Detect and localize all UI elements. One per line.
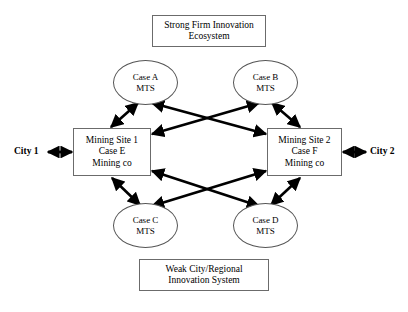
link-case-d-to-site-2: [271, 178, 300, 205]
link-case-c-to-site-1: [112, 178, 140, 205]
node-case-c-mts: Case C MTS: [113, 203, 178, 248]
mining-site-2-line-3: Mining co: [285, 158, 324, 169]
mining-site-2-line-2: Case F: [291, 146, 317, 157]
mining-site-1-line-1: Mining Site 1: [86, 135, 138, 146]
link-case-a-to-site-1: [111, 103, 138, 127]
banner-bottom-line-1: Weak City/Regional: [165, 264, 242, 275]
node-case-b-mts: Case B MTS: [233, 60, 298, 105]
mining-site-2-line-1: Mining Site 2: [278, 135, 330, 146]
case-c-label: Case C: [133, 215, 159, 226]
diagram-canvas: Strong Firm Innovation Ecosystem Case A …: [0, 0, 408, 312]
case-a-sublabel: MTS: [136, 83, 155, 94]
node-mining-site-1: Mining Site 1 Case E Mining co: [73, 128, 151, 176]
mining-site-1-line-2: Case E: [99, 146, 126, 157]
case-b-sublabel: MTS: [256, 83, 275, 94]
case-c-sublabel: MTS: [136, 226, 155, 237]
banner-top-line-2: Ecosystem: [188, 31, 229, 42]
node-mining-site-2: Mining Site 2 Case F Mining co: [267, 128, 342, 176]
banner-weak-city-regional-innovation-system: Weak City/Regional Innovation System: [139, 259, 269, 291]
banner-bottom-line-2: Innovation System: [168, 275, 240, 286]
node-case-a-mts: Case A MTS: [113, 60, 178, 105]
label-city-1: City 1: [14, 146, 39, 156]
link-case-b-to-site-2: [272, 103, 300, 127]
case-a-label: Case A: [133, 72, 159, 83]
mining-site-1-line-3: Mining co: [92, 158, 131, 169]
banner-strong-firm-innovation-ecosystem: Strong Firm Innovation Ecosystem: [152, 15, 266, 47]
banner-top-line-1: Strong Firm Innovation: [164, 20, 254, 31]
node-case-d-mts: Case D MTS: [233, 203, 298, 248]
case-d-sublabel: MTS: [256, 226, 275, 237]
label-city-2: City 2: [370, 146, 395, 156]
case-d-label: Case D: [252, 215, 278, 226]
case-b-label: Case B: [253, 72, 279, 83]
